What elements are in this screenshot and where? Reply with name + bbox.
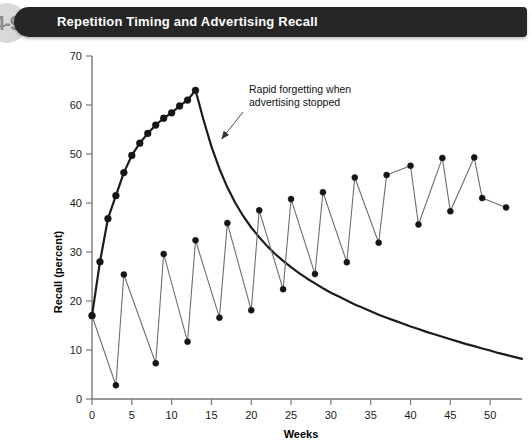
data-point-marker <box>439 155 445 161</box>
annotation-line-2: advertising stopped <box>249 96 340 108</box>
x-tick-label: 5 <box>129 409 135 421</box>
data-point-marker <box>248 307 254 313</box>
y-tick-label: 70 <box>70 50 82 62</box>
y-axis-title: Recall (percent) <box>52 230 64 313</box>
annotation-line-1: Rapid forgetting when <box>249 83 351 95</box>
data-point-marker <box>408 163 414 169</box>
chart-annotations-layer: Rapid forgetting when advertising stoppe… <box>221 83 351 139</box>
recall-line-chart: 010203040506070 05101520253035404550 Rap… <box>0 44 530 443</box>
data-point-marker <box>121 272 127 278</box>
figure-container: 4-9 Repetition Timing and Advertising Re… <box>0 0 530 443</box>
chart-series-layer <box>89 87 522 388</box>
x-axis-ticks: 05101520253035404550 <box>89 399 496 421</box>
y-tick-label: 20 <box>70 295 82 307</box>
annotation-arrowhead-icon <box>221 131 229 139</box>
y-tick-label: 60 <box>70 99 82 111</box>
x-tick-label: 50 <box>484 409 496 421</box>
data-point-marker <box>185 339 191 345</box>
data-point-marker <box>376 240 382 246</box>
x-tick-label: 40 <box>404 409 416 421</box>
data-point-marker <box>288 196 294 202</box>
x-tick-label: 10 <box>166 409 178 421</box>
x-tick-label: 35 <box>365 409 377 421</box>
data-point-marker <box>144 130 151 137</box>
data-point-marker <box>471 154 477 160</box>
y-tick-label: 40 <box>70 197 82 209</box>
data-point-marker <box>153 360 159 366</box>
data-point-marker <box>479 195 485 201</box>
figure-header: 4-9 Repetition Timing and Advertising Re… <box>0 0 530 44</box>
x-tick-label: 15 <box>205 409 217 421</box>
series-line-1 <box>196 90 522 359</box>
chart-plot-area: 010203040506070 05101520253035404550 Rap… <box>0 44 530 443</box>
data-point-marker <box>503 204 509 210</box>
data-point-marker <box>168 109 175 116</box>
y-tick-label: 50 <box>70 148 82 160</box>
x-tick-label: 20 <box>245 409 257 421</box>
data-point-marker <box>193 237 199 243</box>
data-point-marker <box>280 286 286 292</box>
data-point-marker <box>184 97 191 104</box>
data-point-marker <box>224 220 230 226</box>
data-point-marker <box>97 258 104 265</box>
y-axis-ticks: 010203040506070 <box>70 50 92 405</box>
figure-title-bar: Repetition Timing and Advertising Recall <box>14 7 527 37</box>
x-axis-title: Weeks <box>284 428 319 440</box>
x-tick-label: 45 <box>444 409 456 421</box>
data-point-marker <box>136 140 143 147</box>
data-point-marker <box>312 271 318 277</box>
data-point-marker <box>105 215 112 222</box>
data-point-marker <box>176 103 183 110</box>
y-tick-label: 0 <box>76 393 82 405</box>
data-point-marker <box>120 169 127 176</box>
data-point-marker <box>216 315 222 321</box>
y-tick-label: 10 <box>70 344 82 356</box>
data-point-marker <box>152 122 159 129</box>
page-title: Repetition Timing and Advertising Recall <box>57 7 318 37</box>
data-point-marker <box>384 172 390 178</box>
series-line-2 <box>92 157 506 385</box>
data-point-marker <box>160 115 167 122</box>
data-point-marker <box>89 313 95 319</box>
y-tick-label: 30 <box>70 246 82 258</box>
data-point-marker <box>256 207 262 213</box>
data-point-marker <box>320 189 326 195</box>
series-line-0 <box>92 90 196 315</box>
data-point-marker <box>113 382 119 388</box>
x-tick-label: 25 <box>285 409 297 421</box>
data-point-marker <box>344 259 350 265</box>
x-tick-label: 0 <box>89 409 95 421</box>
x-tick-label: 30 <box>325 409 337 421</box>
data-point-marker <box>447 208 453 214</box>
data-point-marker <box>415 222 421 228</box>
data-point-marker <box>161 251 167 257</box>
data-point-marker <box>352 175 358 181</box>
data-point-marker <box>128 152 135 159</box>
data-point-marker <box>112 192 119 199</box>
